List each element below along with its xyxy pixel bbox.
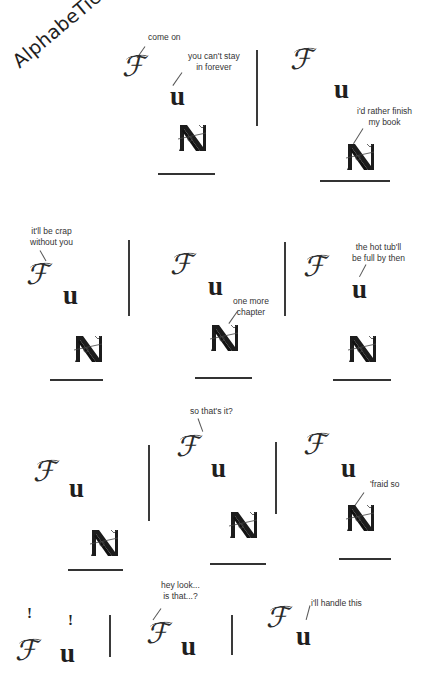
speech-text: without you bbox=[30, 237, 73, 248]
speech-text: is that...? bbox=[161, 591, 200, 602]
letter-u-icon: u bbox=[211, 455, 226, 482]
speech-bubble: hey look... is that...? bbox=[161, 580, 200, 602]
speech-text: the hot tub'll bbox=[352, 242, 405, 253]
letter-u-icon: u bbox=[341, 455, 356, 482]
speech-bubble: so that's it? bbox=[190, 406, 233, 417]
letter-f-icon: ℱ bbox=[15, 637, 37, 665]
letter-n-icon bbox=[208, 323, 240, 353]
speech-bubble: one more chapter bbox=[233, 296, 269, 318]
letter-n-icon bbox=[346, 334, 378, 364]
letter-u-icon: u bbox=[69, 475, 84, 502]
speech-bubble: come on bbox=[148, 32, 181, 43]
letter-f-icon: ℱ bbox=[176, 433, 198, 461]
exclamation-mark: ! bbox=[27, 605, 32, 622]
letter-u-icon: u bbox=[334, 76, 349, 103]
speech-text: chapter bbox=[233, 307, 269, 318]
speech-text: in forever bbox=[188, 62, 240, 73]
underline bbox=[210, 563, 266, 565]
panel-divider bbox=[275, 442, 277, 514]
panel-divider bbox=[231, 615, 233, 655]
letter-n-icon bbox=[344, 503, 376, 533]
letter-f-icon: ℱ bbox=[303, 253, 325, 281]
underline bbox=[195, 377, 252, 379]
speech-text: be full by then bbox=[352, 253, 405, 264]
speech-bubble: 'fraid so bbox=[370, 479, 400, 490]
letter-u-icon: u bbox=[170, 83, 185, 110]
panel-divider bbox=[148, 445, 150, 521]
speech-bubble: it'll be crap without you bbox=[30, 226, 73, 248]
speech-text: i'll handle this bbox=[311, 598, 362, 609]
panel-divider bbox=[109, 615, 111, 657]
speech-text: come on bbox=[148, 32, 181, 43]
letter-u-icon: u bbox=[352, 276, 367, 303]
speech-bubble: i'd rather finish my book bbox=[357, 106, 412, 128]
letter-f-icon: ℱ bbox=[146, 620, 168, 648]
panel-divider bbox=[284, 242, 286, 316]
speech-pointer bbox=[306, 605, 311, 620]
letter-f-icon: ℱ bbox=[170, 251, 192, 279]
speech-text: hey look... bbox=[161, 580, 200, 591]
underline bbox=[158, 173, 215, 175]
letter-n-icon bbox=[88, 528, 120, 558]
comic-title: AlphabeTics bbox=[8, 0, 112, 72]
speech-bubble: the hot tub'll be full by then bbox=[352, 242, 405, 264]
letter-f-icon: ℱ bbox=[266, 604, 288, 632]
underline bbox=[333, 379, 391, 381]
letter-u-icon: u bbox=[60, 640, 75, 667]
letter-n-icon bbox=[227, 510, 259, 540]
speech-text: one more bbox=[233, 296, 269, 307]
letter-u-icon: u bbox=[181, 633, 196, 660]
speech-text: so that's it? bbox=[190, 406, 233, 417]
letter-f-icon: ℱ bbox=[122, 53, 144, 81]
panel-divider bbox=[128, 240, 130, 316]
speech-bubble: i'll handle this bbox=[311, 598, 362, 609]
speech-text: my book bbox=[357, 117, 412, 128]
panel-divider bbox=[256, 50, 258, 126]
letter-n-icon bbox=[176, 123, 208, 153]
letter-f-icon: ℱ bbox=[303, 431, 325, 459]
underline bbox=[68, 569, 123, 571]
letter-f-icon: ℱ bbox=[33, 458, 55, 486]
letter-f-icon: ℱ bbox=[26, 261, 48, 289]
letter-n-icon bbox=[72, 334, 104, 364]
letter-n-icon bbox=[344, 142, 376, 172]
letter-u-icon: u bbox=[296, 623, 311, 650]
letter-u-icon: u bbox=[208, 273, 223, 300]
speech-bubble: you can't stay in forever bbox=[188, 51, 240, 73]
letter-u-icon: u bbox=[63, 282, 78, 309]
underline bbox=[50, 379, 103, 381]
speech-pointer bbox=[198, 418, 204, 431]
speech-text: you can't stay bbox=[188, 51, 240, 62]
underline bbox=[320, 180, 390, 182]
speech-text: 'fraid so bbox=[370, 479, 400, 490]
underline bbox=[339, 558, 391, 560]
letter-f-icon: ℱ bbox=[290, 46, 312, 74]
exclamation-mark: ! bbox=[68, 612, 73, 629]
speech-text: it'll be crap bbox=[30, 226, 73, 237]
speech-text: i'd rather finish bbox=[357, 106, 412, 117]
